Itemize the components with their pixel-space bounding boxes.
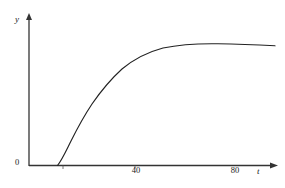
y-axis-label: y	[15, 15, 19, 24]
plot-canvas	[0, 0, 285, 188]
y-axis-arrowhead	[26, 13, 32, 20]
x-tick-label-40: 40	[128, 166, 144, 175]
origin-tick-label: 0	[15, 158, 19, 167]
data-curve	[58, 44, 276, 166]
x-tick-label-80: 80	[227, 166, 243, 175]
x-axis-label: t	[257, 167, 260, 176]
figure-container: y t 0 40 80	[0, 0, 285, 188]
x-axis-arrowhead	[270, 163, 278, 169]
